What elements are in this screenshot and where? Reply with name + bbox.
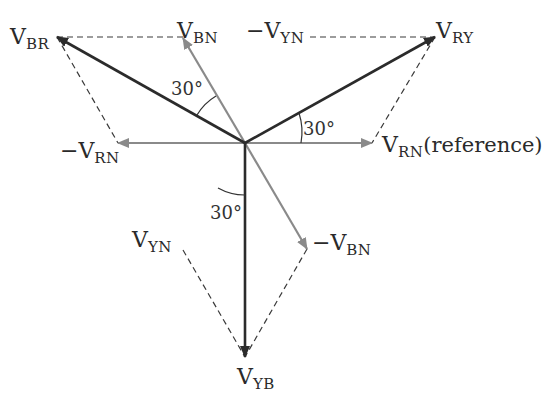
label-v-br: VBR xyxy=(10,26,49,48)
dashed-vyn-vyb xyxy=(183,250,245,357)
label-v-yn: VYN xyxy=(132,229,172,251)
label-neg-v-rn: −VRN xyxy=(60,140,120,162)
line-phasors xyxy=(57,37,435,357)
arc-vyb-negvbn xyxy=(218,188,245,195)
arc-vry-vrn xyxy=(299,113,302,143)
label-v-rn-reference: VRN(reference) xyxy=(382,134,543,156)
phasor-v-br xyxy=(57,37,245,143)
angle-label-vbr-vbn: 30° xyxy=(171,80,203,98)
angle-label-vyb-negvbn: 30° xyxy=(210,204,242,222)
label-v-bn: VBN xyxy=(177,20,218,42)
angle-label-vry-vrn: 30° xyxy=(303,120,335,138)
label-neg-v-bn: −VBN xyxy=(312,232,371,254)
label-v-ry: VRY xyxy=(436,20,474,42)
phasor-v-ry xyxy=(245,37,435,143)
dashed-vry-vrn xyxy=(372,37,435,143)
label-neg-v-yn: −VYN xyxy=(246,20,304,42)
phasor-neg-v-bn xyxy=(245,143,307,249)
label-v-yb: VYB xyxy=(237,366,275,388)
angle-arcs xyxy=(197,96,302,195)
dashed-negvbn-vyb xyxy=(245,249,307,357)
